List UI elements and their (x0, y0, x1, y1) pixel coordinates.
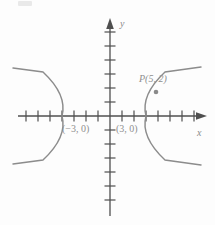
x-axis-label: x (197, 128, 201, 138)
x-axis (18, 112, 207, 120)
hyperbola-figure: y x (−3, 0) (3, 0) P(5, 2) (0, 0, 215, 225)
coordinate-plane (0, 0, 215, 225)
y-axis-label: y (120, 19, 124, 29)
x-axis-arrowhead (196, 112, 207, 120)
right-vertex-label: (3, 0) (116, 124, 138, 134)
y-axis-arrowhead (106, 18, 114, 29)
point-p-marker (154, 90, 159, 95)
left-vertex-label: (−3, 0) (62, 124, 89, 134)
point-p-label: P(5, 2) (139, 74, 167, 84)
